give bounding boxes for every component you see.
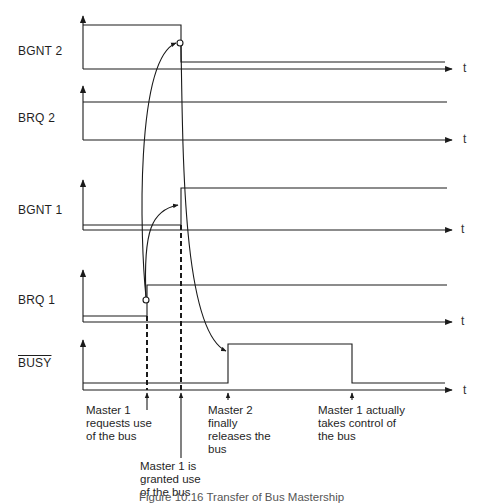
arrow-brq1-to-bgnt1 [145,205,178,297]
bgnt2-edge-circle [177,40,183,46]
brq1-edge-circle [143,297,149,303]
bgnt2-waveform [83,25,445,62]
bgnt2-trace [83,16,452,69]
signal-label-brq2: BRQ 2 [18,111,55,125]
brq1-waveform [83,285,447,316]
busy-trace [83,340,452,390]
arrow-bgnt2-to-busy [181,46,226,351]
signal-label-bgnt2: BGNT 2 [18,44,62,58]
t-label-brq2: t [463,132,466,146]
annotation-master1-takes-control: Master 1 actually takes control of the b… [318,404,405,443]
annotation-master2-releases: Master 2 finally releases the bus [208,404,271,456]
t-label-bgnt1: t [461,222,464,236]
bgnt1-trace [83,180,452,230]
figure-caption: Figure 10.16 Transfer of Bus Mastership [0,491,483,503]
t-label-bgnt2: t [463,61,466,75]
brq2-trace [83,86,452,140]
arrow-brq1-to-bgnt2 [142,43,176,297]
t-label-busy: t [463,383,466,397]
t-label-brq1: t [461,314,464,328]
annotation-master1-requests: Master 1 requests use of the bus [86,404,152,443]
brq1-trace [83,270,452,322]
signal-label-busy: BUSY [18,356,51,370]
bgnt1-waveform [83,188,447,225]
signal-label-brq1: BRQ 1 [18,293,55,307]
busy-waveform [83,344,445,383]
signal-label-bgnt1: BGNT 1 [18,203,62,217]
